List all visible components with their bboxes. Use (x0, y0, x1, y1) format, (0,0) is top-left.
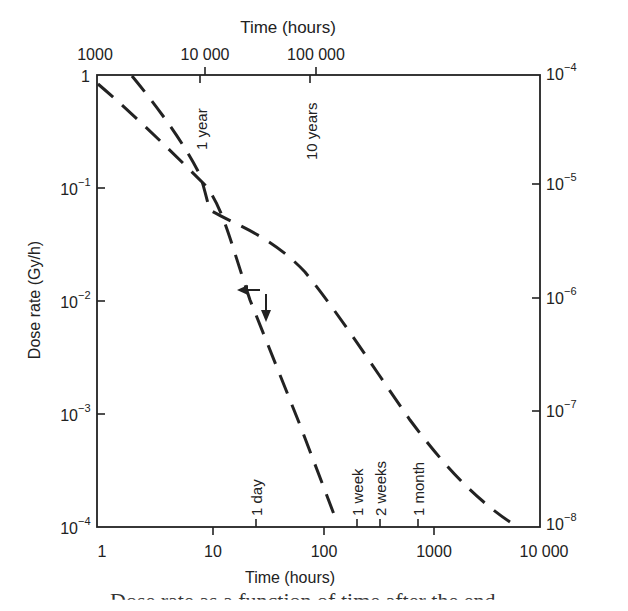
left-axis-ticks (97, 188, 105, 414)
svg-text:−1: −1 (78, 176, 91, 188)
svg-text:−4: −4 (78, 515, 91, 527)
svg-text:10: 10 (546, 290, 564, 307)
svg-text:−3: −3 (78, 402, 91, 414)
left-tick-label: 10 −4 (60, 515, 90, 537)
svg-text:10: 10 (546, 176, 564, 193)
svg-text:10: 10 (546, 66, 564, 83)
arrow-down-icon (261, 294, 271, 322)
svg-text:10: 10 (546, 403, 564, 420)
left-axis-title: Dose rate (Gy/h) (26, 241, 43, 359)
svg-text:−2: −2 (78, 289, 91, 301)
right-tick-label: 10 −6 (546, 285, 577, 307)
right-tick-label: 10 −5 (546, 171, 577, 193)
svg-text:−7: −7 (564, 398, 577, 410)
bottom-tick-label: 10 (204, 543, 222, 560)
annotation-1-year: 1 year (193, 108, 210, 150)
top-tick-label: 1000 (77, 46, 113, 63)
annotation-1-day: 1 day (248, 479, 265, 516)
svg-text:10: 10 (60, 181, 78, 198)
annotation-1-week: 1 week (349, 468, 366, 516)
left-tick-label: 1 (81, 68, 90, 85)
right-tick-label: 10 −4 (546, 61, 577, 83)
bottom-tick-label: 10 000 (520, 543, 569, 560)
annotation-2-weeks: 2 weeks (372, 461, 389, 516)
svg-text:−8: −8 (564, 511, 577, 523)
right-tick-label: 10 −8 (546, 511, 577, 533)
bottom-axis-title: Time (hours) (245, 569, 335, 586)
left-tick-label: 10 −3 (60, 402, 90, 424)
curve-long-term (132, 76, 510, 522)
top-tick-label: 100 000 (287, 46, 345, 63)
annotation-10-years: 10 years (303, 102, 320, 160)
bottom-tick-label: 100 (311, 543, 338, 560)
top-axis-title: Time (hours) (240, 18, 336, 37)
svg-text:−4: −4 (564, 61, 577, 73)
left-tick-label: 10 −1 (60, 176, 90, 198)
svg-text:10: 10 (60, 407, 78, 424)
svg-text:−5: −5 (564, 171, 577, 183)
svg-text:10: 10 (60, 294, 78, 311)
right-tick-label: 10 −7 (546, 398, 577, 420)
bottom-tick-label: 1 (98, 543, 107, 560)
annotation-1-month: 1 month (410, 462, 427, 516)
bottom-tick-label: 1000 (416, 543, 452, 560)
dose-rate-chart: Time (hours) 1000 10 000 100 000 1 year … (0, 0, 628, 611)
curve-short-term (98, 84, 335, 517)
top-tick-label: 10 000 (181, 46, 230, 63)
left-tick-label: 10 −2 (60, 289, 90, 311)
svg-text:10: 10 (60, 520, 78, 537)
svg-text:−6: −6 (564, 285, 577, 297)
right-axis-ticks (532, 184, 540, 411)
svg-text:10: 10 (546, 516, 564, 533)
